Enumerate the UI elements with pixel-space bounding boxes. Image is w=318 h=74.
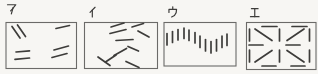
label-i bbox=[90, 7, 95, 17]
label-a bbox=[7, 5, 15, 14]
panel-a bbox=[6, 23, 77, 69]
panel-e bbox=[247, 23, 317, 70]
option-box-i bbox=[85, 23, 158, 69]
pattern-stroke bbox=[255, 51, 272, 63]
pattern-stroke bbox=[15, 58, 30, 59]
option-box-a bbox=[6, 23, 77, 69]
pattern-stroke bbox=[56, 26, 70, 29]
pattern-stroke bbox=[126, 62, 139, 68]
options-figure-svg bbox=[0, 0, 318, 74]
option-label-glyph-stroke bbox=[11, 7, 13, 13]
panel-i bbox=[85, 23, 158, 69]
pattern-stroke bbox=[106, 55, 117, 62]
figure-canvas: ア イ ウ エ bbox=[0, 0, 318, 74]
pattern-stroke bbox=[16, 51, 30, 52]
pattern-stroke bbox=[54, 46, 69, 50]
option-label-glyph-stroke bbox=[169, 9, 177, 17]
panel-u bbox=[164, 23, 236, 67]
option-label-glyph-stroke bbox=[7, 5, 15, 11]
pattern-stroke bbox=[287, 51, 304, 63]
pattern-stroke bbox=[110, 30, 126, 34]
pattern-stroke bbox=[98, 57, 110, 66]
pattern-stroke bbox=[255, 29, 272, 41]
label-e bbox=[250, 9, 259, 17]
pattern-stroke bbox=[111, 23, 124, 27]
pattern-stroke bbox=[52, 54, 67, 58]
pattern-stroke bbox=[128, 47, 139, 52]
pattern-stroke bbox=[287, 29, 304, 41]
label-u bbox=[169, 7, 177, 17]
pattern-stroke bbox=[116, 40, 133, 41]
pattern-stroke bbox=[132, 24, 144, 28]
pattern-stroke bbox=[138, 31, 149, 37]
